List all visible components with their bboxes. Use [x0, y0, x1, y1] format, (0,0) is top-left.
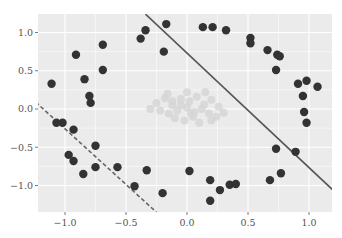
outer-point	[162, 20, 170, 28]
inner-point	[153, 99, 161, 107]
outer-point	[99, 66, 107, 74]
outer-point	[277, 169, 285, 177]
outer-point	[158, 189, 166, 197]
plot-background	[38, 14, 332, 212]
inner-point	[168, 97, 176, 105]
outer-point	[91, 163, 99, 171]
inner-point	[177, 101, 185, 109]
inner-point	[198, 105, 206, 113]
outer-point	[47, 80, 55, 88]
outer-point	[185, 167, 193, 175]
y-axis: 1.00.50.0−0.5−1.0	[10, 27, 38, 191]
outer-point	[263, 46, 271, 54]
y-tick-label: −1.0	[10, 180, 33, 191]
outer-point	[113, 163, 121, 171]
outer-point	[294, 80, 302, 88]
y-tick-label: 1.0	[18, 27, 33, 38]
outer-point	[72, 50, 80, 58]
x-tick-label: 0.5	[240, 217, 255, 228]
scatter-chart: −1.0−0.50.00.51.0 1.00.50.0−0.5−1.0	[0, 0, 342, 238]
outer-point	[222, 26, 230, 34]
y-tick-label: −0.5	[10, 142, 33, 153]
outer-point	[313, 83, 321, 91]
inner-point	[207, 116, 215, 124]
x-tick-label: −0.5	[114, 217, 137, 228]
outer-point	[266, 176, 274, 184]
outer-point	[276, 52, 284, 60]
inner-point	[146, 105, 154, 113]
outer-point	[302, 76, 310, 84]
outer-point	[69, 125, 77, 133]
outer-point	[143, 166, 151, 174]
outer-point	[291, 148, 299, 156]
x-tick-label: 1.0	[301, 217, 316, 228]
x-tick-label: −1.0	[53, 217, 76, 228]
inner-point	[195, 119, 203, 127]
outer-point	[216, 186, 224, 194]
inner-point	[181, 116, 189, 124]
outer-point	[69, 157, 77, 165]
outer-point	[232, 180, 240, 188]
outer-point	[299, 92, 307, 100]
outer-point	[136, 34, 144, 42]
outer-point	[206, 176, 214, 184]
inner-point	[201, 88, 209, 96]
outer-point	[85, 92, 93, 100]
outer-point	[272, 145, 280, 153]
outer-point	[199, 23, 207, 31]
outer-point	[160, 47, 168, 55]
outer-point	[58, 119, 66, 127]
outer-point	[130, 182, 138, 190]
inner-point	[207, 96, 215, 104]
inner-point	[163, 90, 171, 98]
outer-point	[141, 26, 149, 34]
inner-point	[193, 93, 201, 101]
outer-point	[79, 170, 87, 178]
outer-point	[246, 39, 254, 47]
inner-point	[220, 109, 228, 117]
outer-point	[208, 23, 216, 31]
outer-point	[80, 75, 88, 83]
outer-point	[300, 108, 308, 116]
outer-point	[206, 197, 214, 205]
inner-point	[187, 110, 195, 118]
outer-point	[99, 41, 107, 49]
outer-point	[302, 119, 310, 127]
y-tick-label: 0.0	[18, 103, 33, 114]
inner-point	[171, 114, 179, 122]
inner-point	[205, 110, 213, 118]
x-tick-label: 0.0	[179, 217, 194, 228]
inner-point	[156, 107, 164, 115]
inner-point	[183, 88, 191, 96]
x-axis: −1.0−0.50.00.51.0	[53, 212, 316, 228]
y-tick-label: 0.5	[18, 65, 33, 76]
outer-point	[272, 66, 280, 74]
outer-point	[91, 142, 99, 150]
